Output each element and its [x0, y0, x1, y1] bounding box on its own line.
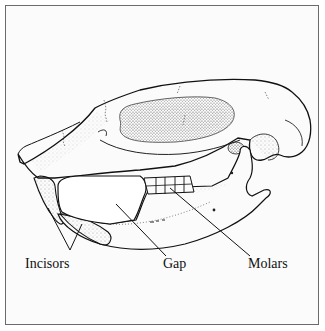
molars [144, 176, 194, 194]
label-molars: Molars [248, 257, 288, 271]
rodent-skull-illustration [0, 0, 325, 331]
label-incisors: Incisors [25, 257, 69, 271]
cranium [18, 79, 311, 178]
diastema-gap [58, 176, 146, 224]
label-gap: Gap [163, 257, 186, 271]
